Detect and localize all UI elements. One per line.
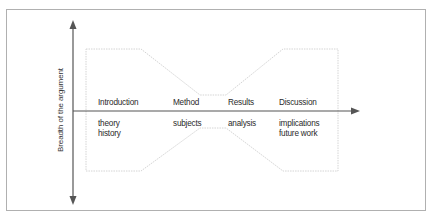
stage-detail: theory — [98, 119, 121, 129]
stage-detail: subjects — [173, 119, 201, 129]
diagram-canvas — [0, 0, 432, 218]
stage-details-results: analysis — [228, 119, 256, 129]
x-axis-right-arrow-icon — [351, 108, 360, 115]
stage-detail: analysis — [228, 119, 256, 129]
stage-details-discussion: implications future work — [279, 119, 319, 139]
y-axis-down-arrow-icon — [70, 196, 77, 205]
stage-details-method: subjects — [173, 119, 201, 129]
stage-title-method: Method — [173, 98, 199, 107]
y-axis-label: Breadth of the argument — [56, 68, 65, 152]
hourglass-outline — [86, 49, 338, 171]
y-axis-up-arrow-icon — [70, 20, 77, 29]
stage-title-introduction: Introduction — [98, 98, 138, 107]
stage-title-discussion: Discussion — [279, 98, 317, 107]
stage-title-results: Results — [228, 98, 254, 107]
stage-details-introduction: theory history — [98, 119, 121, 139]
stage-detail: history — [98, 129, 121, 139]
stage-detail: future work — [279, 129, 319, 139]
stage-detail: implications — [279, 119, 319, 129]
